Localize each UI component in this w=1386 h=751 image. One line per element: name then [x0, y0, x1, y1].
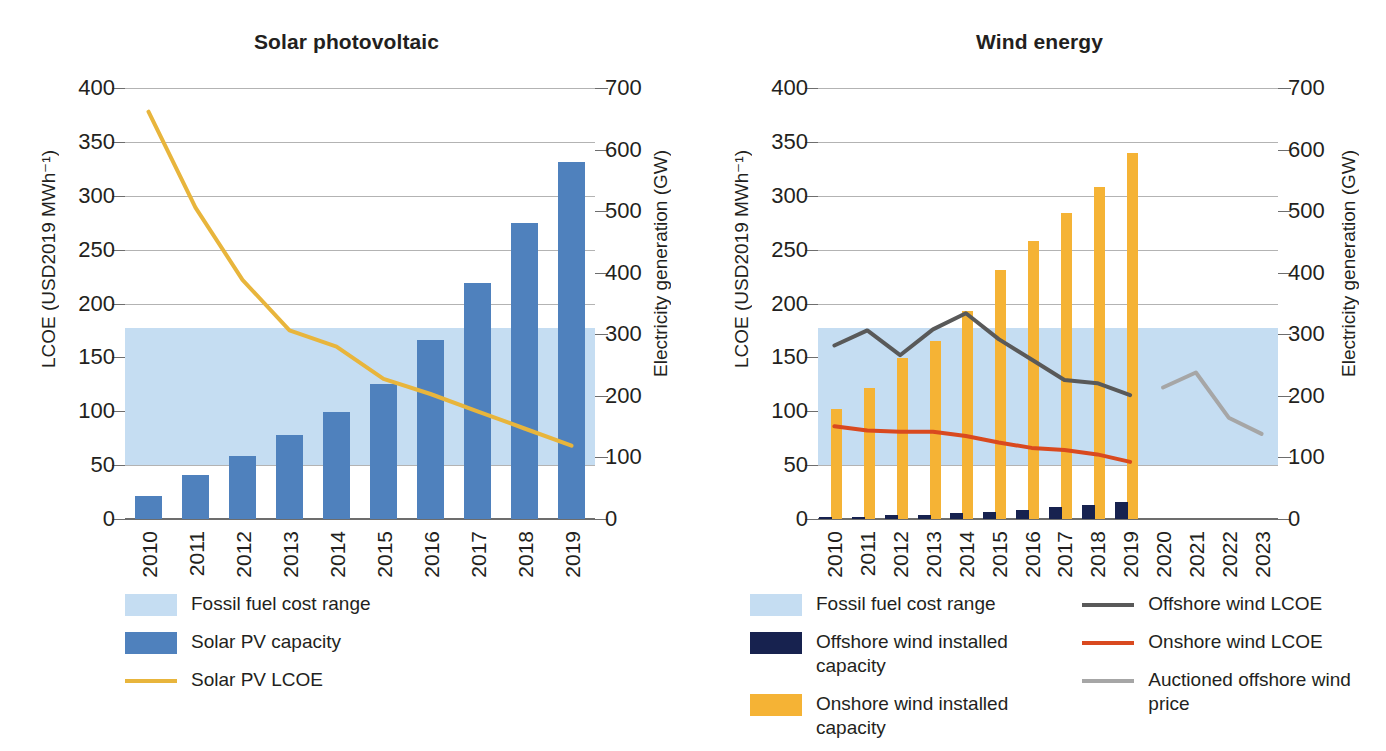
y-axis-tick-label: 100	[771, 400, 808, 422]
y2-axis-tick-label: 500	[1288, 200, 1325, 222]
x-axis-tick-label: 2022	[1218, 531, 1242, 578]
x-axis-tick-label: 2013	[922, 531, 946, 578]
page-title-right: Wind energy	[693, 30, 1386, 54]
y2-axis-tick-label: 100	[1288, 446, 1325, 468]
legend-label: Auctioned offshore wind price	[1148, 668, 1370, 716]
legend-item[interactable]: Solar PV LCOE	[125, 668, 595, 692]
legend-wind-column-2: Offshore wind LCOEOnshore wind LCOEAucti…	[1082, 592, 1370, 751]
legend-color-swatch	[125, 632, 177, 654]
legend-label: Solar PV capacity	[191, 630, 341, 654]
x-axis-tick-label: 2014	[955, 531, 979, 578]
legend-item[interactable]: Offshore wind LCOE	[1082, 592, 1370, 616]
y2-axis-tick-label: 300	[605, 323, 642, 345]
right-chart-y2-axis-label: Electricity generation (GW)	[1338, 150, 1360, 377]
line-series	[834, 426, 1130, 462]
line-series-layer	[125, 88, 595, 519]
y2-axis-tick-label: 0	[1288, 508, 1300, 530]
legend-label: Offshore wind installed capacity	[816, 630, 1054, 678]
x-axis-tick-label: 2023	[1251, 531, 1275, 578]
panel-solar-photovoltaic: Solar photovoltaic LCOE (USD2019 MWh⁻¹) …	[0, 0, 693, 751]
plot-area-wind: 2010201120122013201420152016201720182019…	[818, 88, 1278, 519]
x-axis-tick-label: 2018	[1086, 531, 1110, 578]
y-axis-tick-label: 200	[78, 293, 115, 315]
x-axis-tick-label: 2012	[889, 531, 913, 578]
y-axis-tick-label: 200	[771, 293, 808, 315]
x-axis-tick-label: 2011	[856, 531, 880, 576]
x-axis-tick-label: 2018	[514, 531, 538, 578]
legend-item[interactable]: Solar PV capacity	[125, 630, 595, 654]
page-title-left: Solar photovoltaic	[0, 30, 693, 54]
right-chart-y-axis-label: LCOE (USD2019 MWh⁻¹)	[731, 150, 753, 368]
legend-color-swatch	[125, 594, 177, 616]
y-axis-tick-label: 300	[771, 185, 808, 207]
panel-wind-energy: Wind energy LCOE (USD2019 MWh⁻¹) Electri…	[693, 0, 1386, 751]
legend-item[interactable]: Auctioned offshore wind price	[1082, 668, 1370, 716]
x-axis-tick-label: 2012	[232, 531, 256, 578]
plot-area-solar: 2010201120122013201420152016201720182019…	[125, 88, 595, 519]
x-axis-tick-label: 2017	[1053, 531, 1077, 578]
legend-item[interactable]: Onshore wind LCOE	[1082, 630, 1370, 654]
legend-label: Offshore wind LCOE	[1148, 592, 1322, 616]
y2-axis-tick-label: 600	[605, 139, 642, 161]
legend-color-swatch	[750, 632, 802, 654]
y-axis-tick-label: 150	[78, 346, 115, 368]
x-axis-tick-label: 2019	[561, 531, 585, 578]
y2-axis-tick-label: 100	[605, 446, 642, 468]
y-axis-tick-label: 250	[771, 239, 808, 261]
legend-item[interactable]: Fossil fuel cost range	[750, 592, 1054, 616]
legend-color-swatch	[750, 694, 802, 716]
legend-color-swatch	[750, 594, 802, 616]
legend-label: Onshore wind installed capacity	[816, 692, 1054, 740]
y2-axis-tick-label: 400	[605, 262, 642, 284]
x-axis-tick-label: 2010	[138, 531, 162, 578]
y2-axis-tick-label: 200	[605, 385, 642, 407]
y-axis-tick-label: 0	[103, 508, 115, 530]
y-axis-tick-label: 400	[771, 77, 808, 99]
line-series	[149, 112, 572, 446]
line-series-layer	[818, 88, 1278, 519]
x-axis-tick-label: 2016	[420, 531, 444, 578]
y2-axis-tick-label: 400	[1288, 262, 1325, 284]
x-axis-tick-label: 2011	[185, 531, 209, 576]
x-axis-tick-label: 2019	[1119, 531, 1143, 578]
x-axis-tick-label: 2013	[279, 531, 303, 578]
x-axis-tick-label: 2015	[373, 531, 397, 578]
line-series	[1163, 373, 1262, 434]
x-axis-tick-label: 2015	[988, 531, 1012, 578]
y2-axis-tick-label: 500	[605, 200, 642, 222]
legend-line-swatch	[1082, 594, 1134, 616]
x-axis-tick-label: 2017	[467, 531, 491, 578]
y-axis-tick-label: 50	[91, 454, 115, 476]
legend-item[interactable]: Offshore wind installed capacity	[750, 630, 1054, 678]
line-series	[834, 313, 1130, 395]
y-axis-tick-label: 350	[78, 131, 115, 153]
legend-wind: Fossil fuel cost rangeOffshore wind inst…	[750, 592, 1370, 751]
legend-line-swatch	[125, 670, 177, 692]
y-axis-tick-label: 400	[78, 77, 115, 99]
y2-axis-tick-label: 300	[1288, 323, 1325, 345]
legend-item[interactable]: Fossil fuel cost range	[125, 592, 595, 616]
x-axis-tick-label: 2010	[823, 531, 847, 578]
y-axis-tick-label: 150	[771, 346, 808, 368]
x-axis-tick-label: 2016	[1021, 531, 1045, 578]
x-axis-tick-label: 2020	[1152, 531, 1176, 578]
y-axis-tick-label: 250	[78, 239, 115, 261]
x-axis-tick-label: 2014	[326, 531, 350, 578]
y-axis-tick-label: 100	[78, 400, 115, 422]
legend-label: Fossil fuel cost range	[816, 592, 996, 616]
legend-item[interactable]: Onshore wind installed capacity	[750, 692, 1054, 740]
legend-label: Solar PV LCOE	[191, 668, 323, 692]
y-axis-tick-label: 0	[796, 508, 808, 530]
legend-solar-column: Fossil fuel cost rangeSolar PV capacityS…	[125, 592, 595, 706]
legend-solar: Fossil fuel cost rangeSolar PV capacityS…	[125, 592, 595, 706]
y-axis-tick-label: 350	[771, 131, 808, 153]
legend-label: Fossil fuel cost range	[191, 592, 371, 616]
x-axis-tick-label: 2021	[1185, 531, 1209, 578]
legend-line-swatch	[1082, 670, 1134, 692]
y2-axis-tick-label: 0	[605, 508, 617, 530]
left-chart-y2-axis-label: Electricity generation (GW)	[650, 150, 672, 377]
left-chart-y-axis-label: LCOE (USD2019 MWh⁻¹)	[38, 150, 60, 368]
y2-axis-tick-label: 600	[1288, 139, 1325, 161]
legend-label: Onshore wind LCOE	[1148, 630, 1322, 654]
legend-wind-column-1: Fossil fuel cost rangeOffshore wind inst…	[750, 592, 1054, 751]
